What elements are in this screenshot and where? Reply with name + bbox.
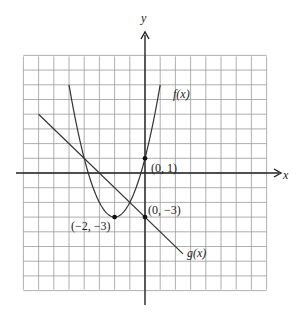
g-line-label: g(x): [187, 247, 206, 259]
point-label-neg2-neg3: (−2, −3): [71, 220, 111, 232]
f-curve-label: f(x): [173, 88, 190, 100]
point-label-0-1: (0, 1): [151, 162, 177, 174]
y-axis-label: y: [141, 12, 146, 24]
point-label-0-neg3: (0, −3): [148, 204, 181, 216]
point-marker: [143, 215, 148, 220]
graph-figure: y x f(x) g(x) (0, 1) (0, −3) (−2, −3): [0, 0, 301, 323]
line-g: [39, 114, 183, 254]
point-marker: [143, 156, 148, 161]
point-marker: [112, 215, 117, 220]
x-axis-label: x: [283, 169, 288, 181]
